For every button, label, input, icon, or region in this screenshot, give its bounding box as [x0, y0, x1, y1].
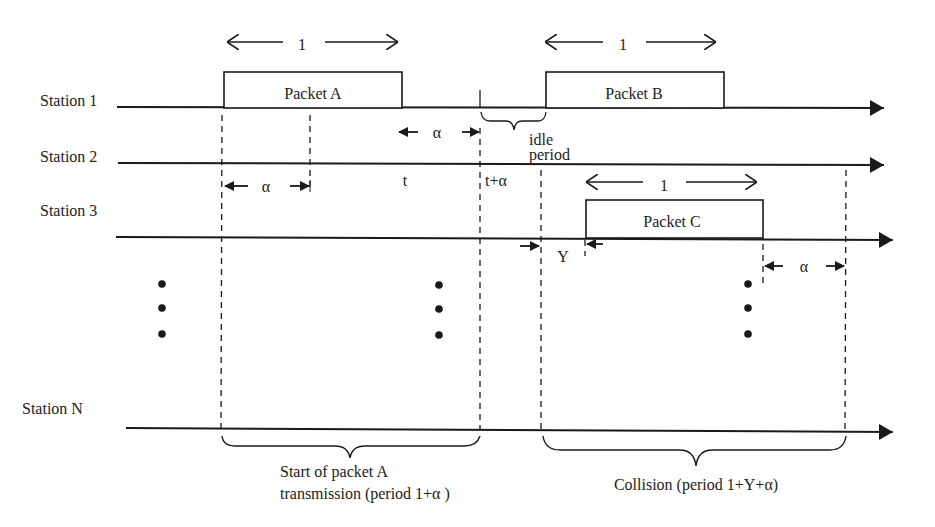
duration-arrow-c: 1: [586, 177, 757, 194]
station-3-label: Station 3: [40, 202, 97, 219]
duration-b-label: 1: [619, 36, 627, 53]
packet-c-label: Packet C: [643, 213, 700, 230]
start-brace-label-line2: transmission (period 1+α ): [280, 485, 450, 503]
duration-arrow-b: 1: [545, 36, 716, 53]
station-n-label: Station N: [22, 400, 83, 417]
duration-a-label: 1: [298, 36, 306, 53]
station-2-label: Station 2: [40, 148, 97, 165]
packet-a: Packet A: [224, 72, 402, 108]
packet-b: Packet B: [546, 72, 724, 108]
y-label: Y: [557, 248, 569, 265]
collision-brace: Collision (period 1+Y+α): [543, 436, 846, 494]
station-1-label: Station 1: [40, 92, 97, 109]
alpha-label-collision: α: [800, 258, 809, 275]
alpha-marker-station-2: α: [225, 178, 310, 195]
packet-c: Packet C: [586, 200, 763, 238]
t-label: t: [403, 172, 408, 189]
dashed-line-packet-a-start: [221, 115, 222, 428]
idle-label-line2: period: [529, 146, 570, 164]
aloha-timing-diagram: Station 1 Station 2 Station 3 Station N …: [0, 0, 935, 527]
station-2-timeline: [118, 163, 884, 165]
alpha-label-t: α: [433, 124, 442, 141]
y-gap-marker: Y: [520, 244, 603, 265]
packet-a-label: Packet A: [284, 85, 342, 102]
duration-c-label: 1: [660, 177, 668, 194]
ellipsis-dots: [158, 280, 752, 339]
collision-brace-label: Collision (period 1+Y+α): [614, 476, 778, 494]
packet-b-label: Packet B: [605, 85, 662, 102]
start-brace-label-line1: Start of packet A: [280, 463, 388, 481]
duration-arrow-a: 1: [227, 36, 398, 53]
alpha-marker-t: α: [399, 124, 479, 141]
start-packet-a-brace: Start of packet A transmission (period 1…: [222, 436, 480, 503]
alpha-marker-collision: α: [765, 258, 844, 275]
t-plus-alpha-label: t+α: [485, 172, 507, 189]
alpha-label-station-2: α: [262, 178, 271, 195]
station-3-timeline: [116, 237, 893, 240]
station-n-timeline: [126, 428, 893, 432]
dashed-line-collision-end: [845, 170, 846, 432]
idle-period-brace: idle period: [481, 112, 570, 164]
